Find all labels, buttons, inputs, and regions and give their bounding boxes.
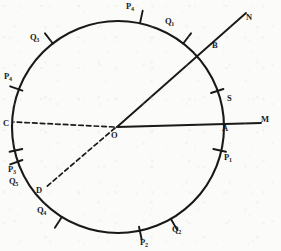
label-p1: P1 bbox=[224, 153, 232, 162]
label-p3: P3 bbox=[8, 165, 16, 174]
label-s: S bbox=[227, 94, 232, 103]
label-q4: Q4 bbox=[37, 206, 47, 215]
line-oc-dashed bbox=[14, 122, 114, 127]
label-b: B bbox=[212, 41, 218, 50]
label-n: N bbox=[246, 13, 252, 22]
label-q3: Q3 bbox=[30, 33, 40, 42]
line-on bbox=[117, 13, 246, 127]
label-p4-left: P4 bbox=[4, 72, 12, 81]
line-od-dashed bbox=[45, 128, 115, 188]
label-a: A bbox=[222, 124, 228, 133]
tick-q3 bbox=[45, 33, 53, 43]
tick-q1 bbox=[183, 33, 191, 43]
label-q5: Q5 bbox=[9, 177, 19, 186]
label-d: D bbox=[36, 186, 42, 195]
label-p2: P2 bbox=[140, 238, 148, 247]
label-o-center: O bbox=[111, 131, 118, 140]
label-q1: Q1 bbox=[165, 17, 175, 26]
label-q2: Q2 bbox=[172, 225, 182, 234]
figure-container: M N O A B S C D P1 P2 P3 P4 P4 Q1 Q2 bbox=[0, 0, 281, 251]
line-om bbox=[117, 123, 261, 127]
label-m: M bbox=[261, 115, 269, 124]
label-c: C bbox=[3, 119, 9, 128]
tick-q4 bbox=[55, 217, 62, 228]
tick-p3 bbox=[10, 149, 23, 152]
label-p4-top: P4 bbox=[126, 2, 134, 11]
tick-p4-top bbox=[140, 11, 143, 24]
